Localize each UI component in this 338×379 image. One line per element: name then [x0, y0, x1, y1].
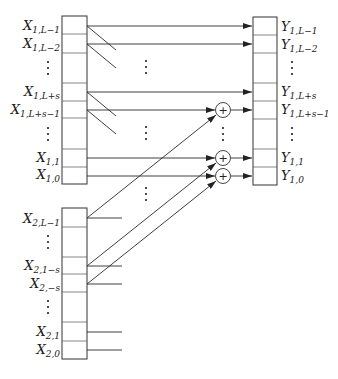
arrow-x2-l-1-to-adder [87, 115, 216, 218]
adder-l-plus-s-1: + [216, 103, 231, 118]
direct-connections [87, 26, 252, 92]
adders-to-y1 [231, 110, 252, 176]
label-y1-0: Y1,0 [281, 168, 304, 185]
label-x2-1-minus-s: X2,1−s [23, 258, 60, 275]
label-x1-l-2: X1,L−2 [22, 36, 60, 53]
svg-text:+: + [218, 104, 227, 117]
label-y1-l-plus-s: Y1,L+s [281, 84, 317, 101]
ellipsis-center [145, 60, 147, 201]
diagram-canvas: X1,L−1 X1,L−2 X1,L+s X1,L+s−1 X1,1 X1,0 … [0, 0, 338, 379]
label-x2-l-1: X2,L−1 [22, 211, 60, 228]
ellipsis-x1-mid [47, 127, 49, 141]
ellipsis-x2-mid [47, 300, 49, 314]
adder-1: + [216, 151, 231, 166]
x1-to-adders [87, 110, 215, 176]
ellipsis-y1-mid [291, 127, 293, 141]
ellipsis-adders [222, 127, 224, 141]
arrow-x2-1-minus-s-to-adder [87, 163, 216, 266]
ellipsis-x1-top [47, 61, 49, 75]
ellipsis-y1-top [291, 61, 293, 75]
label-x2-1: X2,1 [35, 324, 60, 341]
label-x2-0: X2,0 [35, 342, 60, 359]
svg-text:+: + [218, 152, 227, 165]
label-x1-1: X1,1 [35, 150, 60, 167]
x1-diagonal-stubs [87, 26, 116, 134]
label-x1-l-1: X1,L−1 [22, 18, 60, 35]
x1-register [62, 16, 87, 184]
ellipsis-x2-top [47, 235, 49, 249]
label-x2-minus-s: X2,−s [29, 276, 60, 293]
label-x1-l-plus-s-1: X1,L+s−1 [10, 102, 60, 119]
label-x1-l-plus-s: X1,L+s [23, 84, 60, 101]
label-y1-l-1: Y1,L−1 [281, 19, 317, 36]
svg-text:+: + [218, 170, 227, 183]
x1-labels: X1,L−1 X1,L−2 X1,L+s X1,L+s−1 X1,1 X1,0 [10, 18, 61, 184]
label-y1-l-2: Y1,L−2 [281, 37, 318, 54]
adder-0: + [216, 169, 231, 184]
x2-horizontal-stubs [87, 218, 122, 350]
y1-register [253, 17, 277, 185]
label-y1-l-plus-s-1: Y1,L+s−1 [281, 102, 330, 119]
y1-labels: Y1,L−1 Y1,L−2 Y1,L+s Y1,L+s−1 Y1,1 Y1,0 [281, 19, 330, 185]
arrow-x2-minus-s-to-adder [87, 181, 216, 284]
x2-register [62, 208, 87, 359]
x2-labels: X2,L−1 X2,1−s X2,−s X2,1 X2,0 [22, 211, 60, 359]
label-x1-0: X1,0 [35, 167, 60, 184]
label-y1-1: Y1,1 [281, 150, 304, 167]
x2-to-adders [87, 115, 216, 284]
